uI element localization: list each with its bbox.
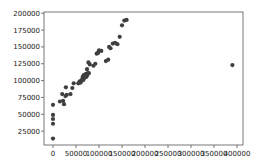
data-point — [65, 93, 69, 97]
data-point — [70, 86, 74, 90]
y-tick-label: 200000 — [13, 10, 40, 18]
y-tick-label: 25000 — [18, 128, 40, 136]
x-tick-label: 400000 — [224, 150, 251, 158]
data-point — [64, 85, 68, 89]
data-point — [51, 113, 55, 117]
data-point — [99, 49, 103, 53]
data-point — [93, 62, 97, 66]
data-point — [62, 102, 66, 106]
data-point — [115, 42, 119, 46]
data-point — [106, 58, 110, 62]
data-point — [51, 122, 55, 126]
data-point — [87, 71, 91, 75]
data-point — [125, 18, 129, 22]
data-point — [72, 81, 76, 85]
data-point — [118, 35, 122, 39]
x-tick-label: 0 — [51, 150, 55, 158]
y-tick-label: 175000 — [13, 27, 40, 35]
plot-area — [44, 12, 243, 145]
data-point — [51, 117, 55, 121]
data-point — [120, 23, 124, 27]
data-point — [51, 136, 55, 140]
data-point — [51, 103, 55, 107]
y-tick-label: 125000 — [13, 60, 40, 68]
y-tick-label: 50000 — [18, 111, 40, 119]
y-tick-label: 75000 — [18, 94, 40, 102]
scatter-chart: 2500050000750001000001250001500001750002… — [0, 0, 259, 167]
data-point — [108, 46, 112, 50]
data-point — [230, 63, 234, 67]
data-point — [88, 62, 92, 66]
y-tick-label: 100000 — [13, 77, 40, 85]
x-axis: 0500001000001500002000002500003000003500… — [51, 145, 251, 158]
y-axis: 2500050000750001000001250001500001750002… — [13, 10, 44, 136]
y-tick-label: 150000 — [13, 43, 40, 51]
x-tick-label: 50000 — [65, 150, 87, 158]
data-point — [68, 92, 72, 96]
data-point — [85, 67, 89, 71]
